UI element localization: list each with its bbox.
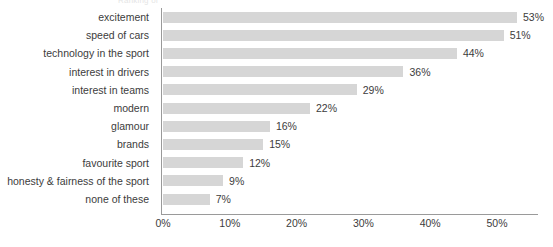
category-label: technology in the sport: [0, 44, 155, 62]
bar-row: interest in teams29%: [0, 81, 553, 99]
bar-row: glamour16%: [0, 117, 553, 135]
bar: [163, 12, 517, 23]
bar-container: 16%: [163, 117, 297, 135]
bar: [163, 194, 210, 205]
bar: [163, 30, 504, 41]
bar-container: 22%: [163, 99, 337, 117]
bar: [163, 121, 270, 132]
bar-container: 53%: [163, 8, 544, 26]
bar-container: 9%: [163, 172, 244, 190]
category-label: excitement: [0, 8, 155, 26]
bar-row: none of these7%: [0, 190, 553, 208]
bar-row: favourite sport12%: [0, 154, 553, 172]
bar-row: brands15%: [0, 135, 553, 153]
bar: [163, 157, 243, 168]
bar-container: 12%: [163, 154, 270, 172]
bar-value-label: 15%: [269, 138, 290, 150]
x-axis-tick-labels: 0%10%20%30%40%50%: [0, 217, 553, 233]
x-tick-label: 20%: [286, 217, 307, 229]
bar: [163, 139, 263, 150]
bar-value-label: 7%: [216, 193, 231, 205]
bar-chart: Ranking of excitement53%speed of cars51%…: [0, 0, 553, 247]
bar: [163, 103, 310, 114]
bar-value-label: 22%: [316, 102, 337, 114]
category-label: modern: [0, 99, 155, 117]
bar: [163, 175, 223, 186]
bar-container: 51%: [163, 26, 531, 44]
x-tick-label: 30%: [353, 217, 374, 229]
bar-row: technology in the sport44%: [0, 44, 553, 62]
bar: [163, 66, 403, 77]
bar-row: interest in drivers36%: [0, 63, 553, 81]
category-label: interest in drivers: [0, 63, 155, 81]
bar-container: 29%: [163, 81, 384, 99]
category-label: speed of cars: [0, 26, 155, 44]
category-label: brands: [0, 135, 155, 153]
bar: [163, 48, 457, 59]
bar-value-label: 12%: [249, 157, 270, 169]
x-tick-label: 40%: [420, 217, 441, 229]
bar-value-label: 9%: [229, 175, 244, 187]
bar-row: modern22%: [0, 99, 553, 117]
x-tick-label: 0%: [155, 217, 170, 229]
bar-container: 15%: [163, 135, 290, 153]
x-tick-label: 50%: [486, 217, 507, 229]
category-label: none of these: [0, 190, 155, 208]
bar-value-label: 29%: [363, 84, 384, 96]
category-label: interest in teams: [0, 81, 155, 99]
bar-value-label: 53%: [523, 11, 544, 23]
bar-value-label: 16%: [276, 120, 297, 132]
plot-area: excitement53%speed of cars51%technology …: [0, 8, 553, 220]
bar-row: speed of cars51%: [0, 26, 553, 44]
bar-row: honesty & fairness of the sport9%: [0, 172, 553, 190]
bar-value-label: 36%: [409, 66, 430, 78]
bar: [163, 84, 357, 95]
category-label: favourite sport: [0, 154, 155, 172]
bar-row: excitement53%: [0, 8, 553, 26]
bar-container: 7%: [163, 190, 231, 208]
category-label: honesty & fairness of the sport: [0, 172, 155, 190]
bar-value-label: 51%: [510, 29, 531, 41]
bar-container: 44%: [163, 44, 484, 62]
category-label: glamour: [0, 117, 155, 135]
clipped-caption-text: Ranking of: [118, 0, 158, 5]
y-axis-line: [161, 8, 162, 214]
bar-value-label: 44%: [463, 47, 484, 59]
bar-container: 36%: [163, 63, 430, 81]
x-tick-label: 10%: [219, 217, 240, 229]
x-axis-line: [161, 214, 538, 215]
